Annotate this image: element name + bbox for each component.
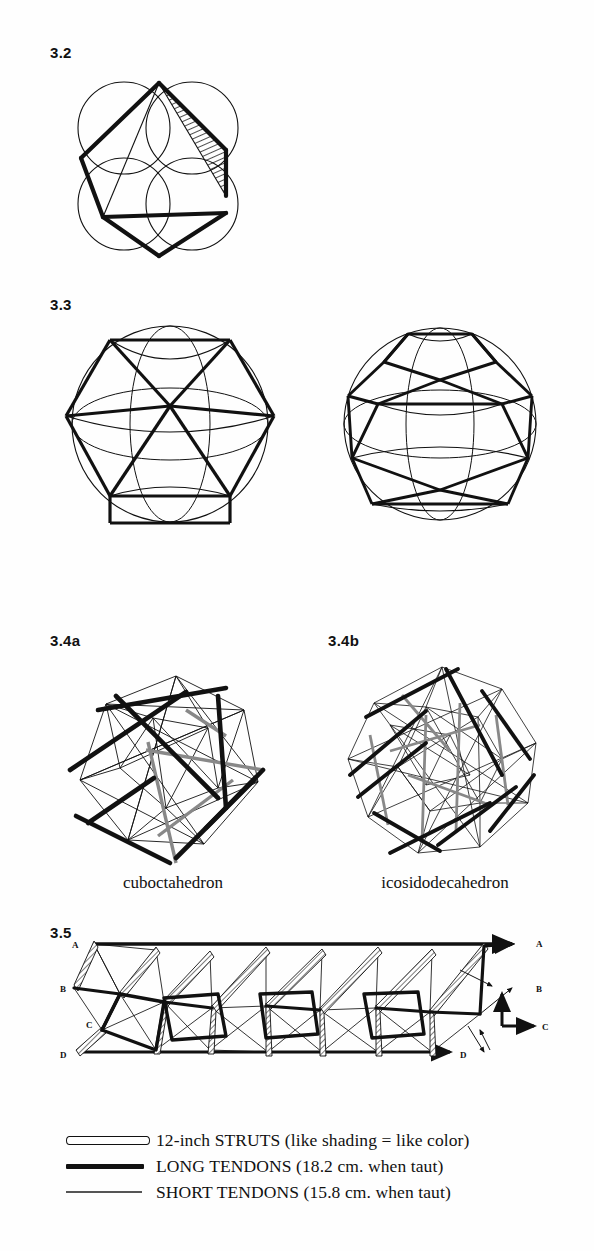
legend-label-short-tendons: SHORT TENDONS (15.8 cm. when taut) — [156, 1182, 451, 1203]
legend-label-struts: 12-inch STRUTS (like shading = like colo… — [156, 1130, 469, 1151]
vertex-label-D-right: D — [460, 1050, 467, 1060]
short-tendon-swatch-icon — [66, 1191, 156, 1192]
strut-swatch-icon — [66, 1136, 156, 1145]
long-tendon-swatch-icon — [66, 1164, 156, 1169]
circle-top-left — [78, 82, 170, 174]
figure-3-5: A B C D A B C D — [60, 930, 570, 1065]
figure-label-3-4a: 3.4a — [50, 632, 80, 649]
thin-tendon-left — [103, 83, 159, 217]
legend: 12-inch STRUTS (like shading = like colo… — [66, 1128, 536, 1206]
legend-row-long-tendons: LONG TENDONS (18.2 cm. when taut) — [66, 1154, 536, 1178]
figure-3-4a — [58, 658, 288, 873]
legend-row-short-tendons: SHORT TENDONS (15.8 cm. when taut) — [66, 1180, 536, 1204]
figure-label-3-3: 3.3 — [50, 296, 72, 313]
legend-row-struts: 12-inch STRUTS (like shading = like colo… — [66, 1128, 536, 1152]
legend-label-long-tendons: LONG TENDONS (18.2 cm. when taut) — [156, 1156, 443, 1177]
sphere-icosidodecahedron — [344, 328, 536, 520]
strut-e — [103, 213, 226, 217]
figure-label-3-2: 3.2 — [50, 44, 72, 61]
vertex-label-C-left: C — [86, 1020, 93, 1030]
figure-caption-icosidodecahedron: icosidodecahedron — [320, 873, 570, 893]
vertex-label-A-right: A — [536, 939, 543, 949]
vertex-label-C-right: C — [542, 1022, 549, 1032]
sphere-cuboctahedron — [66, 326, 274, 523]
vertex-label-A-left: A — [72, 940, 79, 950]
figure-3-3 — [48, 318, 568, 530]
vertex-label-B-right: B — [536, 984, 542, 994]
figure-3-2 — [48, 66, 298, 281]
circle-bottom-left — [78, 158, 170, 250]
figure-caption-cuboctahedron: cuboctahedron — [58, 873, 288, 893]
figure-page: 3.2 — [0, 0, 594, 1251]
vertex-label-D-left: D — [60, 1050, 67, 1060]
vertex-label-B-left: B — [60, 984, 66, 994]
figure-3-4b — [330, 655, 560, 873]
figure-label-3-4b: 3.4b — [328, 632, 359, 649]
